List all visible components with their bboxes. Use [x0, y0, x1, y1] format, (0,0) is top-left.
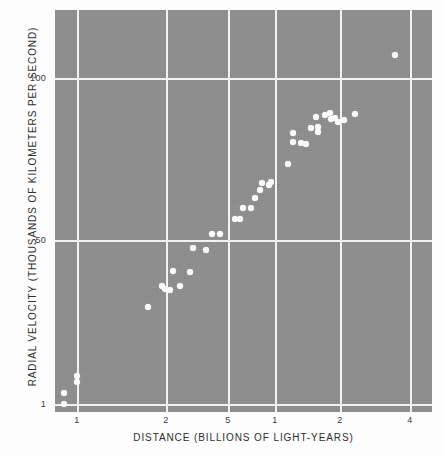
data-point [240, 205, 246, 211]
x-tick-label-2: 5 [225, 415, 230, 425]
y-tick-label-2: 1 [41, 399, 46, 409]
data-point [177, 283, 183, 289]
data-point [315, 129, 321, 135]
data-point [257, 187, 263, 193]
data-point [352, 111, 358, 117]
data-point [170, 268, 176, 274]
data-point [209, 231, 215, 237]
data-point [285, 161, 291, 167]
gridline-vertical-1 [166, 10, 168, 412]
data-point [290, 139, 296, 145]
data-point [268, 179, 274, 185]
data-point [308, 125, 314, 131]
gridline-horizontal-0 [55, 78, 432, 80]
data-point [190, 245, 196, 251]
data-point [259, 180, 265, 186]
data-point [313, 114, 319, 120]
gridline-horizontal-2 [55, 404, 432, 406]
data-point [61, 390, 67, 396]
x-tick-label-1: 2 [163, 415, 168, 425]
gridline-vertical-4 [340, 10, 342, 412]
gridline-vertical-3 [275, 10, 277, 412]
data-point [341, 117, 347, 123]
data-point [61, 401, 67, 407]
data-point [203, 247, 209, 253]
data-point [252, 195, 258, 201]
x-tick-label-5: 4 [407, 415, 412, 425]
data-point [167, 287, 173, 293]
data-point [290, 130, 296, 136]
x-axis-title: DISTANCE (BILLIONS OF LIGHT-YEARS) [55, 432, 432, 443]
gridline-vertical-5 [410, 10, 412, 412]
paper-grain-texture [55, 10, 432, 412]
data-point [187, 269, 193, 275]
hubble-diagram-figure: 125124 100501 DISTANCE (BILLIONS OF LIGH… [0, 0, 443, 455]
data-point [392, 52, 398, 58]
plot-area [55, 10, 432, 412]
gridline-vertical-0 [77, 10, 79, 412]
data-point [303, 141, 309, 147]
data-point [74, 379, 80, 385]
x-tick-label-3: 1 [272, 415, 277, 425]
data-point [145, 304, 151, 310]
x-tick-label-0: 1 [74, 415, 79, 425]
y-axis-title: RADIAL VELOCITY (THOUSANDS OF KILOMETERS… [27, 7, 38, 407]
gridline-horizontal-1 [55, 240, 432, 242]
data-point [237, 216, 243, 222]
data-point [217, 231, 223, 237]
gridline-vertical-2 [228, 10, 230, 412]
x-tick-label-4: 2 [337, 415, 342, 425]
data-point [248, 205, 254, 211]
